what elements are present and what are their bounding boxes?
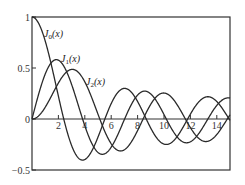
curve-labels: J0(x)J1(x)J2(x) — [44, 28, 106, 89]
y-tick-label: 1 — [25, 12, 30, 23]
plot-frame — [32, 17, 230, 170]
label-j2x: J2(x) — [86, 76, 106, 89]
y-tick-label: −0.5 — [12, 165, 30, 176]
plot-border — [32, 17, 230, 170]
y-tick-label: 0.5 — [18, 63, 31, 74]
y-tick-label: 0 — [25, 114, 30, 125]
label-j1x: J1(x) — [61, 53, 81, 66]
x-tick-label: 2 — [56, 120, 61, 131]
bessel-chart: 246810121410.50−0.5 J0(x)J1(x)J2(x) — [0, 0, 245, 185]
x-tick-label: 6 — [109, 120, 114, 131]
label-j0x: J0(x) — [44, 28, 64, 41]
